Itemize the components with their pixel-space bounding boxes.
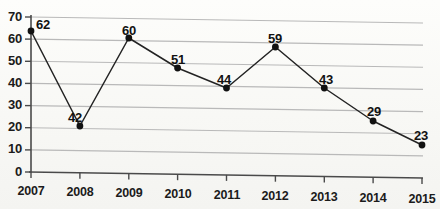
x-tick-label-2007: 2007: [8, 184, 54, 198]
data-label-2013: 43: [313, 72, 339, 87]
x-tick-label-2012: 2012: [252, 189, 298, 203]
y-tick-label-20: 20: [0, 119, 22, 134]
data-label-2011: 44: [211, 72, 237, 87]
x-tick-label-2014: 2014: [350, 191, 396, 205]
y-tick-label-60: 60: [0, 31, 22, 46]
y-tick-label-50: 50: [0, 53, 22, 68]
x-tick-label-2013: 2013: [301, 190, 347, 204]
y-tick-label-70: 70: [0, 9, 22, 24]
data-label-2010: 51: [165, 52, 191, 67]
x-tick-label-2011: 2011: [204, 188, 250, 202]
y-tick-label-0: 0: [0, 164, 22, 179]
y-tick-label-30: 30: [0, 97, 22, 112]
y-tick-label-10: 10: [0, 141, 22, 156]
data-label-2009: 60: [116, 23, 142, 38]
data-label-2014: 29: [361, 104, 387, 119]
gridline-10: [31, 150, 423, 156]
data-label-2015: 23: [408, 128, 434, 143]
x-tick-label-2008: 2008: [57, 185, 103, 199]
gridline-20: [31, 128, 423, 134]
line-chart: 70 60 50 40 30 20 10 0 2007 2008 2009 20…: [0, 0, 440, 209]
x-tick-label-2015: 2015: [399, 192, 440, 206]
gridline-50: [31, 61, 423, 67]
x-tick-label-2009: 2009: [106, 186, 152, 200]
x-axis-ticks: [31, 172, 422, 184]
y-tick-label-40: 40: [0, 75, 22, 90]
data-label-2012: 59: [262, 31, 288, 46]
data-label-2008: 42: [62, 110, 88, 125]
y-axis-ticks: [25, 17, 31, 172]
gridline-60: [31, 39, 423, 45]
x-tick-label-2010: 2010: [155, 187, 201, 201]
gridline-70: [31, 17, 423, 23]
data-label-2007: 62: [30, 17, 56, 32]
